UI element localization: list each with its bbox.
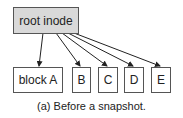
block-c-node: C [98, 67, 118, 93]
block-b-label: B [77, 73, 85, 87]
arrow-to-block-e [74, 33, 160, 66]
block-b-node: B [72, 67, 91, 93]
block-e-node: E [151, 67, 171, 93]
arrow-to-block-a [39, 33, 43, 66]
block-c-label: C [104, 73, 113, 87]
block-d-label: D [130, 73, 139, 87]
block-a-node: block A [13, 67, 63, 93]
figure-caption: (a) Before a snapshot. [0, 100, 183, 112]
root-inode-label: root inode [19, 14, 72, 28]
root-inode-node: root inode [13, 7, 79, 34]
block-e-label: E [157, 73, 165, 87]
block-d-node: D [124, 67, 144, 93]
block-a-label: block A [19, 73, 58, 87]
